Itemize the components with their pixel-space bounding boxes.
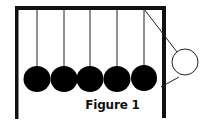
- figure-caption: Figure 1: [0, 98, 209, 112]
- resting-balls: [24, 65, 158, 92]
- strings: [37, 10, 144, 67]
- right-post-upper: [162, 6, 166, 36]
- ball-4: [104, 66, 131, 92]
- ball-2: [51, 66, 78, 92]
- ball-1: [24, 66, 51, 92]
- ball-3: [77, 66, 104, 92]
- swinging-ball: [172, 49, 198, 75]
- swing-string-upper: [144, 9, 177, 52]
- top-bar: [15, 6, 166, 10]
- ball-5: [131, 65, 157, 91]
